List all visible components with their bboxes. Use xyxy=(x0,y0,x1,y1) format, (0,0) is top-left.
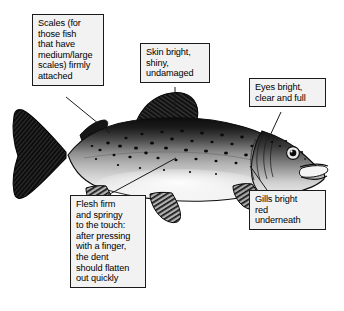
callout-skin: Skin bright, shiny, undamaged xyxy=(140,43,210,83)
callout-scales: Scales (for those fish that have medium/… xyxy=(32,14,104,86)
eye xyxy=(287,147,300,160)
fish-freshness-diagram: Scales (for those fish that have medium/… xyxy=(0,0,344,311)
callout-eyes: Eyes bright, clear and full xyxy=(249,78,326,107)
tail-fin xyxy=(13,110,66,199)
head xyxy=(251,131,328,195)
callout-gills: Gills bright red underneath xyxy=(249,190,326,230)
callout-flesh: Flesh firm and springy to the touch: aft… xyxy=(70,195,146,288)
